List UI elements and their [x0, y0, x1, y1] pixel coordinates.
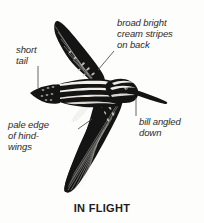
annotation-pale-edge: pale edge of hind- wings	[8, 119, 78, 153]
annotation-short-tail: short tail	[16, 44, 76, 66]
short-tail	[30, 85, 60, 104]
bill	[136, 90, 167, 104]
leader-back-stripes	[98, 51, 114, 70]
figure-caption: IN FLIGHT	[0, 202, 204, 214]
annotation-back-stripes: broad bright cream stripes on back	[117, 17, 204, 51]
annotation-bill-angled-down: bill angled down	[139, 116, 204, 138]
figure-panel: short tail broad bright cream stripes on…	[0, 0, 204, 223]
